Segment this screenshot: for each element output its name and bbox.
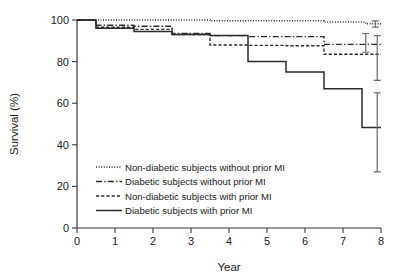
y-axis-tick-label: 20 (57, 180, 69, 192)
chart-canvas: 020406080100012345678YearSurvival (%)Non… (0, 0, 405, 276)
survival-curve (77, 20, 381, 24)
confidence-interval-errorbar (374, 93, 381, 172)
x-axis-tick-label: 8 (378, 235, 384, 247)
legend-entry-label: Non-diabetic subjects without prior MI (125, 162, 285, 173)
y-axis-tick-label: 40 (57, 139, 69, 151)
confidence-interval-errorbar (362, 34, 369, 53)
y-axis-tick-label: 100 (51, 14, 69, 26)
y-axis-tick-label: 60 (57, 97, 69, 109)
x-axis-title: Year (217, 261, 240, 273)
survival-chart-figure: 020406080100012345678YearSurvival (%)Non… (0, 0, 405, 276)
y-axis-title: Survival (%) (8, 93, 20, 155)
legend-entry-label: Non-diabetic subjects with prior MI (125, 191, 272, 202)
x-axis-tick-label: 6 (302, 235, 308, 247)
x-axis-tick-label: 7 (340, 235, 346, 247)
x-axis-tick-label: 1 (112, 235, 118, 247)
confidence-interval-errorbar (374, 36, 381, 81)
survival-curve (77, 20, 381, 44)
x-axis-tick-label: 4 (226, 235, 232, 247)
legend-entry-label: Diabetic subjects without prior MI (125, 176, 266, 187)
x-axis-tick-label: 0 (74, 235, 80, 247)
y-axis-tick-label: 0 (63, 222, 69, 234)
x-axis-tick-label: 5 (264, 235, 270, 247)
y-axis-tick-label: 80 (57, 56, 69, 68)
legend-entry-label: Diabetic subjects with prior MI (125, 205, 252, 216)
x-axis-tick-label: 3 (188, 235, 194, 247)
x-axis-tick-label: 2 (150, 235, 156, 247)
survival-curve (77, 20, 381, 128)
